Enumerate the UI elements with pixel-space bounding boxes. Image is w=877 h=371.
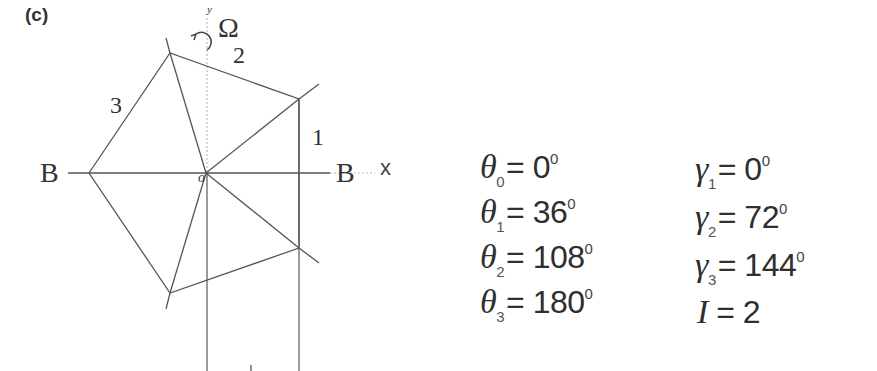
omega-label: Ω <box>218 12 239 44</box>
subscript: 2 <box>496 263 504 280</box>
equation-gamma-2: γ2= 720 <box>695 198 787 236</box>
gamma-symbol: γ <box>695 198 708 235</box>
pentagon-diagram <box>0 0 420 371</box>
spoke <box>206 99 299 173</box>
degree-superscript: 0 <box>550 150 558 167</box>
equation-value: = 180 <box>506 284 584 320</box>
equation-theta-2: θ2= 1080 <box>480 238 592 276</box>
rotation-arrow-icon <box>196 32 211 50</box>
y-axis-label: y <box>207 3 212 15</box>
subscript: 0 <box>496 173 504 190</box>
equation-value: = 72 <box>718 199 779 235</box>
theta-symbol: θ <box>480 193 496 230</box>
equation-theta-0: θ0= 00 <box>480 148 558 186</box>
equation-value: = 36 <box>506 194 567 230</box>
theta-symbol: θ <box>480 238 496 275</box>
degree-superscript: 0 <box>567 195 575 212</box>
subscript: 1 <box>496 218 504 235</box>
theta-symbol: θ <box>480 283 496 320</box>
origin-label: o <box>198 170 205 186</box>
element-label-1: 1 <box>312 124 324 151</box>
extension-tick <box>166 38 170 53</box>
equation-value: = 144 <box>718 247 796 283</box>
boundary-label-left: B <box>40 157 59 189</box>
equation-value: = 2 <box>716 294 760 330</box>
I-symbol: I <box>697 293 708 330</box>
extension-tick <box>299 84 319 99</box>
spoke <box>206 173 299 248</box>
degree-superscript: 0 <box>762 152 770 169</box>
extension-tick <box>166 293 170 309</box>
degree-superscript: 0 <box>585 285 593 302</box>
degree-superscript: 0 <box>796 248 804 265</box>
boundary-label-right: B <box>336 157 355 189</box>
equation-gamma-3: γ3= 1440 <box>695 246 804 284</box>
spoke <box>170 53 206 173</box>
equation-theta-3: θ3= 1800 <box>480 283 592 321</box>
equation-value: = 108 <box>506 239 584 275</box>
equation-theta-1: θ1= 360 <box>480 193 575 231</box>
equation-value: = 0 <box>718 151 762 187</box>
x-axis-label: x <box>380 155 391 181</box>
subscript: 1 <box>708 175 716 192</box>
theta-symbol: θ <box>480 148 496 185</box>
subscript: 3 <box>708 271 716 288</box>
element-label-2: 2 <box>233 42 245 69</box>
degree-superscript: 0 <box>779 200 787 217</box>
equation-gamma-1: γ1= 00 <box>695 150 769 188</box>
equation-I: I = 2 <box>697 293 760 331</box>
panel-label: (c) <box>25 4 48 26</box>
subscript: 3 <box>496 308 504 325</box>
gamma-symbol: γ <box>695 246 708 283</box>
rotation-arrowhead <box>191 34 196 40</box>
extension-tick <box>299 248 319 263</box>
subscript: 2 <box>708 223 716 240</box>
gamma-symbol: γ <box>695 150 708 187</box>
equation-value: = 0 <box>506 149 550 185</box>
element-label-3: 3 <box>110 92 122 119</box>
spoke <box>170 173 206 293</box>
degree-superscript: 0 <box>585 240 593 257</box>
